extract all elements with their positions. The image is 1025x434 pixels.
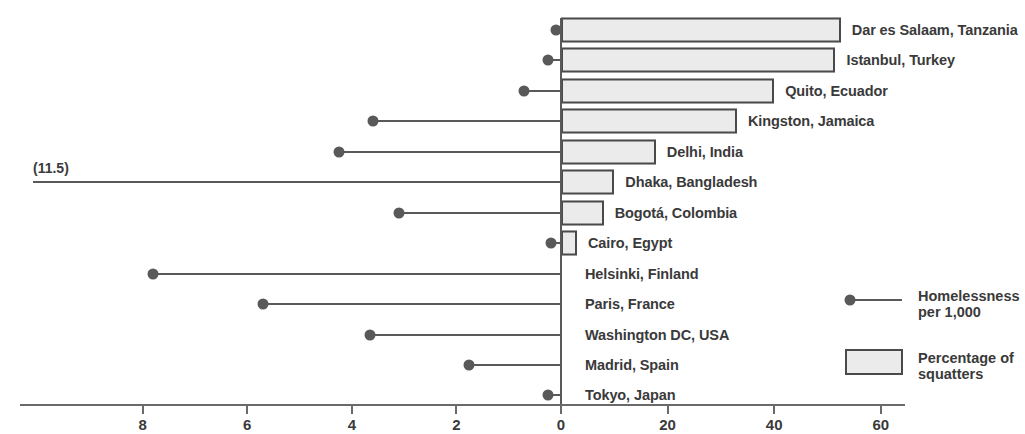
chart-container: Dar es Salaam, TanzaniaIstanbul, TurkeyQ… [0, 0, 1025, 434]
legend-homelessness-dot [845, 295, 856, 306]
legend-label-squatters: Percentage of squatters [918, 350, 1014, 382]
legend-squatter-swatch [845, 349, 903, 375]
legend-label-homelessness: Homelessness per 1,000 [918, 288, 1020, 320]
chart-legend: Homelessness per 1,000Percentage of squa… [0, 0, 1025, 434]
